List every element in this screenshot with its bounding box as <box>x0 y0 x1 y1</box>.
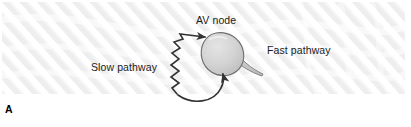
slow-pathway-label: Slow pathway <box>91 61 157 73</box>
figure-panel: AV node Slow pathway Fast pathway A <box>0 0 411 127</box>
av-node-label: AV node <box>196 14 236 26</box>
panel-letter-label: A <box>5 103 13 115</box>
fast-pathway-label: Fast pathway <box>267 44 331 56</box>
